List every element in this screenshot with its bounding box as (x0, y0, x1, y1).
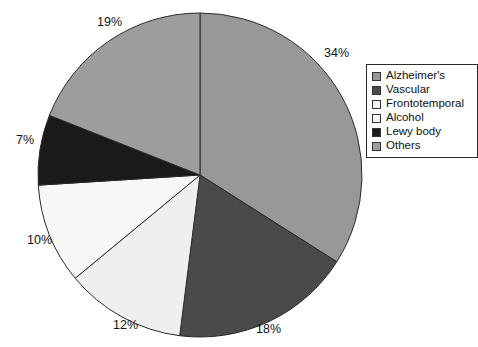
legend-swatch-icon-others (372, 142, 381, 151)
slice-label-alcohol: 10% (27, 234, 52, 247)
legend-swatch-icon-alcohol (372, 114, 381, 123)
legend-item-vascular[interactable]: Vascular (372, 83, 473, 97)
legend-item-alcohol[interactable]: Alcohol (372, 111, 473, 125)
legend-label-alzheimers: Alzheimer's (386, 70, 445, 82)
slice-label-alzheimers: 34% (324, 47, 349, 60)
legend-item-others[interactable]: Others (372, 139, 473, 153)
slice-label-lewy-body: 7% (16, 134, 34, 147)
slice-label-frontotemporal: 12% (113, 319, 138, 332)
legend-swatch-icon-vascular (372, 86, 381, 95)
legend-swatch-icon-frontotemporal (372, 100, 381, 109)
slice-label-vascular: 18% (256, 323, 281, 336)
slice-label-others: 19% (97, 16, 122, 29)
legend-label-lewy-body: Lewy body (386, 126, 441, 138)
legend-item-frontotemporal[interactable]: Frontotemporal (372, 97, 473, 111)
legend-swatch-icon-alzheimers (372, 72, 381, 81)
legend-item-lewy-body[interactable]: Lewy body (372, 125, 473, 139)
legend-label-vascular: Vascular (386, 84, 430, 96)
legend-label-alcohol: Alcohol (386, 112, 424, 124)
legend: Alzheimer's Vascular Frontotemporal Alco… (366, 64, 478, 158)
legend-label-frontotemporal: Frontotemporal (386, 98, 464, 110)
legend-item-alzheimers[interactable]: Alzheimer's (372, 69, 473, 83)
legend-swatch-icon-lewy-body (372, 128, 381, 137)
legend-label-others: Others (386, 140, 421, 152)
pie-slices-group (38, 13, 362, 337)
